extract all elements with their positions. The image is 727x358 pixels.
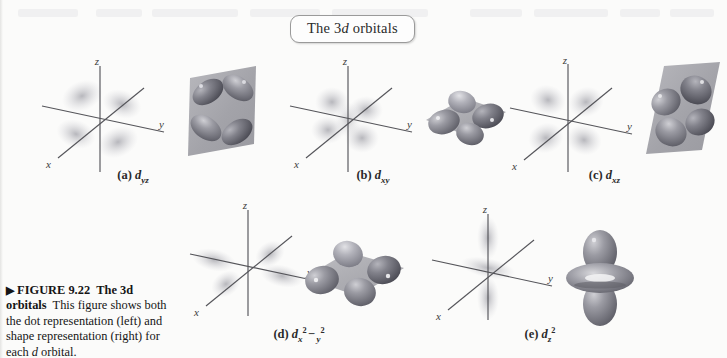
axis-label-y-e: y xyxy=(547,272,553,284)
caption-figure-number: FIGURE 9.22 xyxy=(17,283,90,297)
panel-letter-e: (e) xyxy=(525,327,539,341)
figure-title-italic-d: d xyxy=(341,20,348,36)
axis-label-y-c: y xyxy=(626,120,632,132)
axis-label-z-c: z xyxy=(562,58,568,66)
panel-letter-c: (c) xyxy=(589,168,603,182)
figure-caption: ▶ FIGURE 9.22 The 3d orbitals This figur… xyxy=(6,283,176,358)
orbital-panel-a: z y x (a) dyz xyxy=(8,58,258,188)
panel-superscript-d2: 2 xyxy=(320,326,324,335)
panel-subscript-b: xy xyxy=(381,175,390,185)
axis-label-x-e: x xyxy=(435,310,441,322)
torus-highlight-e xyxy=(585,274,615,282)
panel-subscript-e: z xyxy=(548,334,552,344)
panel-label-e: (e) dz2 xyxy=(420,326,660,344)
shape-representation-c xyxy=(640,60,726,160)
panel-label-b: (b) dxy xyxy=(248,168,498,185)
dot-representation-b: z y x xyxy=(266,58,426,178)
axes-c xyxy=(510,64,632,172)
axis-label-z-d: z xyxy=(242,199,248,211)
panel-subscript-d1: x xyxy=(298,334,303,344)
figure-title-suffix: orbitals xyxy=(349,20,398,36)
axis-label-x-d: x xyxy=(193,306,199,318)
dot-representation-c: z y x xyxy=(486,58,646,178)
caption-triangle-icon: ▶ xyxy=(6,284,14,296)
orbital-panel-e: z y x (e) dz2 xyxy=(420,198,660,348)
panel-subscript-c: xz xyxy=(612,175,620,185)
orbital-panel-b: z y x (b) dxy xyxy=(248,58,498,188)
axis-label-z-b: z xyxy=(342,58,348,67)
panel-minus-d: − xyxy=(307,327,317,341)
nodal-plane-a xyxy=(188,66,256,156)
axis-label-z-e: z xyxy=(482,203,488,215)
panel-label-c: (c) dxz xyxy=(482,168,727,185)
orbital-panel-c: z y x (c) dxz xyxy=(482,58,727,188)
dot-representation-e: z y x xyxy=(424,198,574,322)
panel-letter-a: (a) xyxy=(117,168,132,182)
axes-a xyxy=(42,66,164,172)
panel-label-a: (a) dyz xyxy=(8,168,258,185)
panel-label-d: (d) dx2 − y2 xyxy=(178,326,420,344)
shape-representation-e xyxy=(558,226,642,330)
figure-title-prefix: The 3 xyxy=(307,20,341,36)
panel-subscript-d2: y xyxy=(316,334,320,344)
page-edge xyxy=(0,0,3,358)
axes-b xyxy=(290,66,412,172)
axis-label-y-a: y xyxy=(158,118,164,130)
orbital-lobes-e xyxy=(566,230,634,326)
shape-representation-d xyxy=(298,230,410,316)
panel-letter-d: (d) xyxy=(273,327,288,341)
panel-superscript-e: 2 xyxy=(551,326,555,335)
figure-title-pill: The 3d orbitals xyxy=(290,15,415,43)
axis-label-y-b: y xyxy=(406,118,412,130)
caption-body-2: orbital. xyxy=(38,345,77,358)
axis-label-z-a: z xyxy=(94,58,100,67)
panel-subscript-a: yz xyxy=(141,175,149,185)
panel-letter-b: (b) xyxy=(356,168,371,182)
dot-representation-a: z y x xyxy=(18,58,178,178)
orbital-panel-d: z y x (d) dx2 − y2 xyxy=(178,198,420,348)
dot-cloud-b xyxy=(311,87,383,153)
